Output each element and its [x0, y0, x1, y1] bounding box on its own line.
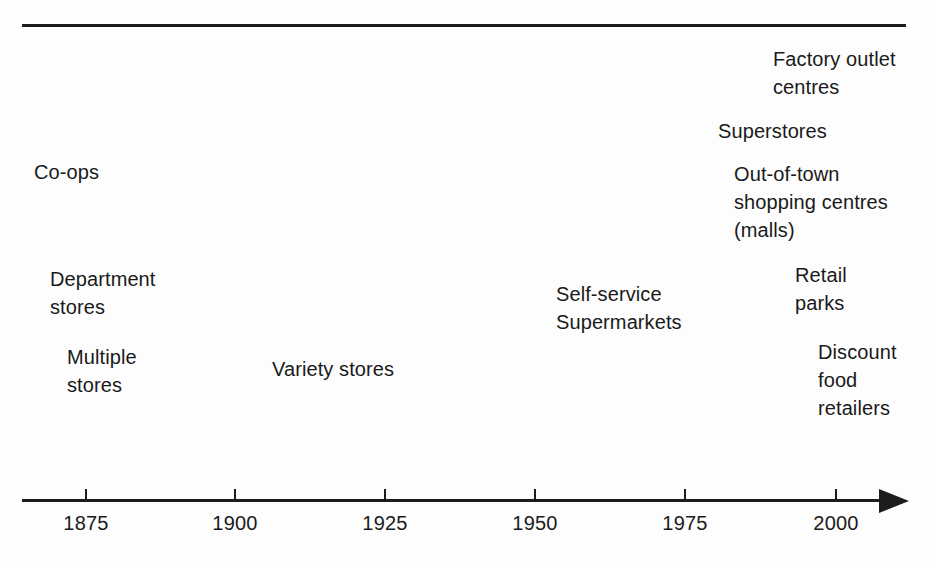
axis-tick-label-1900: 1900 [175, 512, 295, 535]
axis-tick-1950 [534, 489, 536, 500]
axis-tick-label-2000: 2000 [776, 512, 896, 535]
event-label-out-of-town-shopping-centres: Out-of-town shopping centres (malls) [734, 160, 888, 244]
axis-tick-1875 [85, 489, 87, 500]
axis-line [22, 499, 882, 502]
event-label-discount-food-retailers: Discount food retailers [818, 338, 897, 422]
axis-tick-label-1875: 1875 [26, 512, 146, 535]
axis-tick-2000 [835, 489, 837, 500]
timeline-figure: Co-opsDepartment storesMultiple storesVa… [0, 0, 934, 562]
event-label-self-service-supermarkets: Self-service Supermarkets [556, 280, 682, 336]
axis-tick-label-1925: 1925 [325, 512, 445, 535]
axis-tick-label-1950: 1950 [475, 512, 595, 535]
axis-tick-1975 [684, 489, 686, 500]
event-label-factory-outlet-centres: Factory outlet centres [773, 45, 896, 101]
axis-arrow-icon [879, 489, 909, 513]
event-label-multiple-stores: Multiple stores [67, 343, 137, 399]
event-label-variety-stores: Variety stores [272, 355, 394, 383]
event-label-co-ops: Co-ops [34, 158, 99, 186]
event-label-retail-parks: Retail parks [795, 261, 847, 317]
axis-tick-1925 [384, 489, 386, 500]
axis-tick-label-1975: 1975 [625, 512, 745, 535]
event-label-department-stores: Department stores [50, 265, 156, 321]
axis-tick-1900 [234, 489, 236, 500]
event-label-superstores: Superstores [718, 117, 827, 145]
top-divider-rule [22, 24, 906, 27]
